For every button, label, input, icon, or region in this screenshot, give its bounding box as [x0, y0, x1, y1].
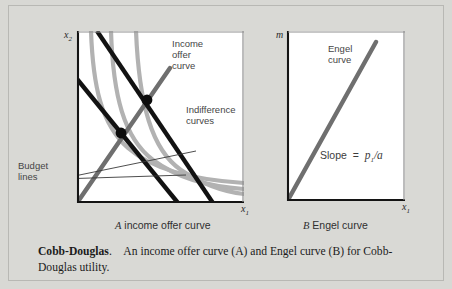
panel-b-x-axis-label: x1	[402, 201, 410, 215]
tangency-dot-lower	[116, 128, 127, 139]
income-offer-curve-label: Income offer curve	[172, 38, 203, 72]
panel-b-y-axis-label: m	[276, 29, 283, 40]
panel-a-caption: A income offer curve	[115, 219, 211, 231]
panel-a-caption-text: income offer curve	[121, 219, 210, 231]
tangency-dot-upper	[142, 95, 153, 106]
figure-root: x2 x1 Income offer curve Indifference cu…	[0, 0, 452, 289]
figure-caption: Cobb-Douglas. An income offer curve (A) …	[38, 244, 430, 276]
panel-b-caption-text: Engel curve	[309, 219, 367, 231]
budget-lines-label: Budget lines	[18, 160, 48, 182]
engel-curve-label: Engel curve	[328, 43, 352, 65]
panel-b-caption: B Engel curve	[303, 219, 368, 231]
figure-caption-title: Cobb-Douglas	[38, 245, 109, 258]
indifference-curves-label: Indifference curves	[186, 104, 235, 126]
slope-equation-prefix: Slope =	[320, 149, 365, 161]
panel-a-x-axis-label: x1	[241, 203, 249, 217]
slope-equation-a: a	[377, 149, 383, 161]
panel-a-y-axis-label: x2	[64, 29, 72, 43]
slope-equation: Slope = p1/a	[320, 149, 383, 164]
slope-equation-p: p1	[365, 149, 374, 161]
